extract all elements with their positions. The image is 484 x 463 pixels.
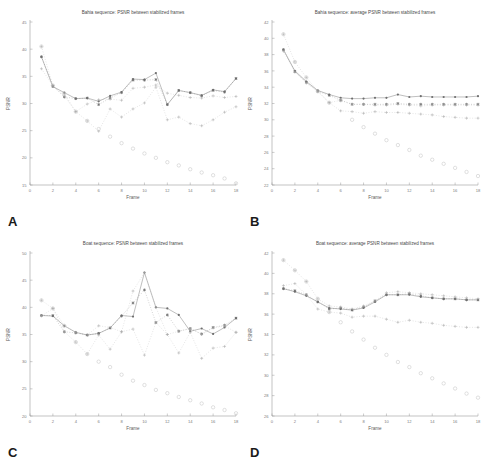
marker-circle <box>453 166 456 169</box>
marker-plus <box>477 326 480 329</box>
x-tick-label: 16 <box>211 188 216 193</box>
marker-plus <box>362 304 365 307</box>
y-axis-label: PSNR <box>6 327 11 340</box>
y-tick-label: 32 <box>264 101 269 106</box>
marker-circle <box>143 152 146 155</box>
marker-plus <box>143 354 146 357</box>
marker-plus <box>419 292 422 295</box>
marker-circle <box>442 162 445 165</box>
circle-marker <box>373 132 376 135</box>
marker-circle <box>154 388 157 391</box>
marker-plus <box>351 103 354 106</box>
marker-plus <box>212 94 215 97</box>
marker-plus <box>143 271 146 274</box>
circle-marker <box>465 170 468 173</box>
marker-plus <box>132 87 135 90</box>
marker-plus <box>362 315 365 318</box>
marker-plus <box>465 117 468 120</box>
y-tick-label: 30 <box>264 117 269 122</box>
x-tick-label: 4 <box>75 188 78 193</box>
chart-title: Bahia sequence: average PSNR between sta… <box>315 10 436 15</box>
marker-plus <box>454 325 457 328</box>
x-tick-label: 6 <box>340 419 343 424</box>
marker-circle <box>465 170 468 173</box>
marker-circle <box>177 164 180 167</box>
chart-title: Bahia sequence: PSNR between stabilized … <box>82 10 185 15</box>
marker-circle <box>465 392 468 395</box>
x-tick-label: 12 <box>165 188 170 193</box>
marker-plus <box>477 117 480 120</box>
marker-dot <box>397 93 399 95</box>
x-tick-label: 2 <box>52 419 55 424</box>
chart-panel-c: Boat sequence: PSNR between stabilized f… <box>0 231 242 462</box>
marker-circle <box>408 365 411 368</box>
series-line-plus <box>41 273 236 335</box>
circle-marker <box>408 148 411 151</box>
marker-plus <box>385 111 388 114</box>
marker-circle <box>166 160 169 163</box>
marker-circle <box>189 399 192 402</box>
circle-marker <box>350 118 353 121</box>
marker-circle <box>419 154 422 157</box>
marker-plus <box>86 103 89 106</box>
marker-circle <box>211 174 214 177</box>
marker-plus <box>442 115 445 118</box>
marker-circle <box>154 156 157 159</box>
marker-dot <box>385 97 387 99</box>
marker-plus <box>408 319 411 322</box>
circle-marker <box>177 164 180 167</box>
marker-circle <box>431 377 434 380</box>
marker-circle <box>476 174 479 177</box>
plot-svg-a: Bahia sequence: PSNR between stabilized … <box>0 0 242 210</box>
marker-circle <box>396 360 399 363</box>
marker-dot <box>132 315 134 317</box>
panel-letter-a: A <box>8 214 17 229</box>
marker-plus <box>431 104 434 107</box>
marker-circle <box>223 408 226 411</box>
x-tick-label: 0 <box>271 188 274 193</box>
marker-plus <box>396 103 399 106</box>
circle-marker <box>120 141 123 144</box>
circle-marker <box>143 152 146 155</box>
series-line-solid-line <box>283 50 478 99</box>
marker-star <box>97 103 100 106</box>
circle-marker <box>350 330 353 333</box>
marker-plus <box>235 105 238 108</box>
circle-marker <box>385 138 388 141</box>
circle-marker <box>166 391 169 394</box>
x-tick-label: 8 <box>120 419 123 424</box>
circle-marker <box>223 177 226 180</box>
y-tick-label: 32 <box>264 352 269 357</box>
circle-marker <box>442 162 445 165</box>
marker-plus <box>442 324 445 327</box>
marker-plus <box>120 99 123 102</box>
series-line-plus-low <box>283 284 478 328</box>
marker-plus <box>86 334 89 337</box>
x-tick-label: 2 <box>52 188 55 193</box>
circle-marker <box>362 125 365 128</box>
y-tick-label: 35 <box>22 332 27 337</box>
marker-circle <box>131 379 134 382</box>
marker-plus <box>120 330 123 333</box>
marker-dot <box>374 97 376 99</box>
circle-marker <box>131 147 134 150</box>
y-tick-label: 26 <box>264 414 269 419</box>
marker-plus <box>408 104 411 107</box>
marker-plus <box>154 321 157 324</box>
circle-marker <box>385 353 388 356</box>
x-tick-label: 0 <box>29 188 32 193</box>
circle-marker <box>396 143 399 146</box>
marker-plus <box>454 116 457 119</box>
marker-dot <box>201 327 203 329</box>
circle-marker <box>189 399 192 402</box>
circle-marker <box>396 360 399 363</box>
marker-plus <box>431 322 434 325</box>
marker-plus <box>442 294 445 297</box>
series-line-plus-low <box>283 51 478 118</box>
x-axis-label: Frame <box>126 195 140 200</box>
y-tick-label: 30 <box>264 373 269 378</box>
y-tick-label: 40 <box>264 36 269 41</box>
marker-star <box>132 302 135 305</box>
y-tick-label: 28 <box>264 393 269 398</box>
circle-marker <box>200 171 203 174</box>
